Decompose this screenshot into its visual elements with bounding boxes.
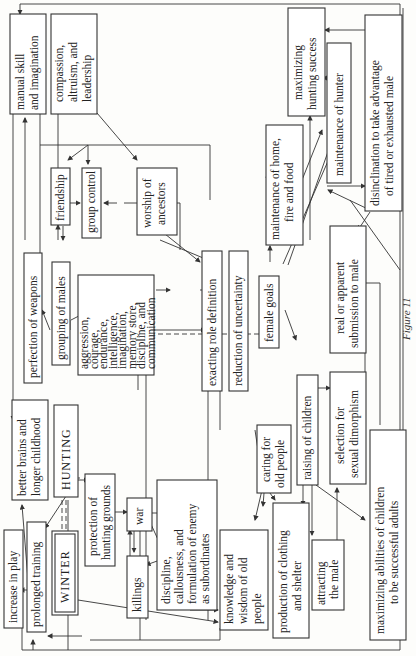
node-killings: killings xyxy=(127,556,148,618)
svg-text:reduction of uncertainty: reduction of uncertainty xyxy=(232,275,245,386)
node-prolonged-training: prolonged training xyxy=(27,522,46,632)
node-hunting[interactable]: HUNTING xyxy=(54,405,78,497)
svg-text:perfection of weapons: perfection of weapons xyxy=(27,275,40,378)
svg-text:friendship: friendship xyxy=(54,174,67,221)
node-disinclination: disinclination to take advantageof tired… xyxy=(365,15,402,211)
node-female-goals: female goals xyxy=(259,276,279,348)
node-attracting-the-male: attractingthe male xyxy=(312,540,344,610)
node-maintenance-of-home: maintenance of home,fire and food xyxy=(266,125,303,245)
svg-text:prolonged training: prolonged training xyxy=(30,541,43,627)
svg-text:killings: killings xyxy=(131,577,144,612)
node-better-brains: better brains andlonger childhood xyxy=(12,400,48,500)
node-knowledge-wisdom: knowledge andwisdom of oldpeople xyxy=(220,530,268,630)
node-selection-dimorphism: selection forsexual dimorphism xyxy=(330,372,366,484)
node-reduction-of-uncertainty: reduction of uncertainty xyxy=(229,251,248,391)
node-friendship: friendship xyxy=(51,168,70,225)
node-discipline-callousness: discipline, callousness, and formulation… xyxy=(157,480,217,610)
svg-text:better brains andlonger childh: better brains andlonger childhood xyxy=(16,418,43,496)
svg-text:increase in play: increase in play xyxy=(7,551,20,623)
svg-text:maximizinghunting success: maximizinghunting success xyxy=(292,37,319,110)
node-caring-for-old-people: caring forold people xyxy=(257,425,291,493)
node-maintenance-of-hunter: maintenance of hunter xyxy=(327,43,351,183)
node-compassion: compassion,altruism, andleadership xyxy=(51,14,97,114)
node-increase-in-play: increase in play xyxy=(4,530,23,628)
svg-text:grouping of males: grouping of males xyxy=(55,276,68,360)
node-winter[interactable]: WINTER xyxy=(52,500,78,615)
svg-text:war: war xyxy=(133,508,145,525)
node-perfection-of-weapons: perfection of weapons xyxy=(24,253,42,383)
node-war: war xyxy=(127,498,152,531)
svg-text:WINTER: WINTER xyxy=(58,550,72,603)
svg-text:HUNTING: HUNTING xyxy=(59,428,73,490)
svg-text:female goals: female goals xyxy=(263,283,276,342)
node-protection-of-hunting-grounds: protection ofhunting grounds xyxy=(85,474,115,566)
node-exacting-role-definition: exacting role definition xyxy=(202,251,222,391)
node-group-control: group control xyxy=(82,168,101,238)
node-production-clothing: production of clothingand shelter xyxy=(273,503,309,638)
node-aggression-traits: aggression, courage, endurance, intellig… xyxy=(78,275,157,375)
figure-caption: Figure 11 xyxy=(400,298,412,341)
svg-text:attractingthe male: attractingthe male xyxy=(315,560,340,605)
svg-text:group control: group control xyxy=(85,171,98,233)
node-grouping-of-males: grouping of males xyxy=(52,262,70,365)
diagram-canvas: manual skilland imagination compassion,a… xyxy=(0,0,416,656)
svg-text:exacting role definition: exacting role definition xyxy=(206,278,219,386)
node-worship-of-ancestors: worship ofancestors xyxy=(137,168,177,235)
node-maximizing-hunting-success: maximizinghunting success xyxy=(288,8,325,116)
node-raising-of-children: raising of children xyxy=(297,375,318,485)
node-maximizing-abilities-children: maximizing abilities of childrento be su… xyxy=(370,430,406,640)
svg-text:caring forold people: caring forold people xyxy=(260,437,287,488)
node-manual-skill: manual skilland imagination xyxy=(10,14,46,114)
diagram-figure-11: manual skilland imagination compassion,a… xyxy=(0,0,416,656)
node-real-submission: real or apparentsubmission to male xyxy=(330,226,366,353)
svg-text:raising of children: raising of children xyxy=(301,395,314,480)
svg-text:maintenance of hunter: maintenance of hunter xyxy=(333,73,345,176)
